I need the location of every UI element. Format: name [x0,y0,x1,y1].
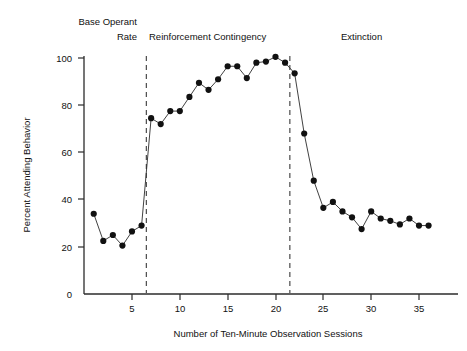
y-tick-label-60: 60 [61,147,72,158]
data-point [301,130,307,136]
chart-svg: Base Operant Rate Reinforcement Continge… [0,0,467,351]
x-tick-label-20: 20 [271,303,282,314]
phase-label-base-operant-line1: Base Operant [78,16,137,27]
data-point [378,215,384,221]
phase-label-reinforcement-contingency: Reinforcement Contingency [149,31,266,42]
data-point [129,228,135,234]
x-axis-ticks [132,294,419,300]
y-tick-label-20: 20 [61,242,72,253]
x-tick-label-30: 30 [366,303,377,314]
y-tick-label-100: 100 [56,53,72,64]
x-tick-label-10: 10 [175,303,186,314]
data-point [425,222,431,228]
data-point [225,63,231,69]
data-point [138,222,144,228]
data-point [272,54,278,60]
x-tick-label-15: 15 [223,303,234,314]
y-axis-title: Percent Attending Behavior [21,117,32,232]
chart-figure: Base Operant Rate Reinforcement Continge… [0,0,467,351]
data-point [368,208,374,214]
data-point [244,75,250,81]
phase-label-extinction: Extinction [341,31,382,42]
data-point [282,60,288,66]
data-point [110,232,116,238]
x-tick-label-25: 25 [318,303,329,314]
x-tick-label-5: 5 [129,303,134,314]
data-point [177,108,183,114]
data-point [234,63,240,69]
data-point [253,60,259,66]
data-point [339,208,345,214]
data-point [263,58,269,64]
data-point [119,243,125,249]
data-point [406,215,412,221]
y-axis-ticks [78,58,84,247]
data-point [387,218,393,224]
y-tick-label-80: 80 [61,100,72,111]
data-point [196,80,202,86]
data-point [397,221,403,227]
data-point [416,222,422,228]
data-point [148,115,154,121]
y-tick-label-40: 40 [61,194,72,205]
x-axis-title: Number of Ten-Minute Observation Session… [174,328,363,339]
data-point [215,76,221,82]
data-point [205,87,211,93]
data-point [359,226,365,232]
data-point [292,70,298,76]
y-tick-label-0: 0 [67,289,72,300]
x-tick-label-35: 35 [414,303,425,314]
phase-label-base-operant-line2: Rate [117,31,137,42]
data-point [186,94,192,100]
data-point [158,121,164,127]
data-point [91,211,97,217]
data-point [100,238,106,244]
phase-dividers [146,56,290,293]
data-point [311,178,317,184]
data-point [167,108,173,114]
data-point [330,199,336,205]
data-point [349,214,355,220]
data-point [320,205,326,211]
